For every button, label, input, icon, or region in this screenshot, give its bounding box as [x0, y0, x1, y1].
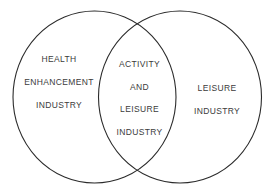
- left-circle-labels: HEALTH ENHANCEMENT INDUSTRY: [14, 55, 104, 110]
- intersection-line-1: ACTIVITY: [119, 60, 160, 69]
- right-circle-line-2: INDUSTRY: [194, 107, 240, 116]
- right-circle-labels: LEISURE INDUSTRY: [180, 84, 254, 116]
- venn-diagram: HEALTH ENHANCEMENT INDUSTRY ACTIVITY AND…: [0, 0, 279, 196]
- right-circle-line-1: LEISURE: [198, 84, 237, 93]
- left-circle-line-2: ENHANCEMENT: [24, 78, 94, 87]
- intersection-labels: ACTIVITY AND LEISURE INDUSTRY: [106, 60, 173, 136]
- left-circle-line-3: INDUSTRY: [36, 101, 82, 110]
- left-circle-line-1: HEALTH: [41, 55, 76, 64]
- intersection-line-4: INDUSTRY: [116, 128, 162, 137]
- intersection-line-2: AND: [130, 83, 149, 92]
- intersection-line-3: LEISURE: [120, 105, 159, 114]
